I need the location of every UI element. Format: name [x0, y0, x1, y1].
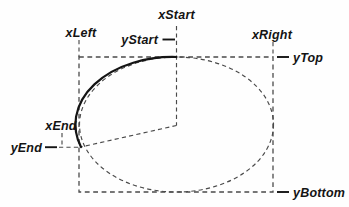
label-xstart: xStart: [157, 8, 195, 22]
label-ystart: yStart: [120, 33, 158, 47]
label-yend: yEnd: [10, 141, 43, 155]
label-ytop: yTop: [292, 51, 323, 65]
arc-solid: [75, 57, 176, 147]
radius-line-end: [81, 126, 177, 148]
label-xend: xEnd: [44, 119, 77, 133]
label-xright: xRight: [251, 28, 293, 42]
arc-parameters-diagram: xStart xLeft yStart xRight yTop xEnd yEn…: [0, 0, 349, 207]
arc-diagram-canvas: xStart xLeft yStart xRight yTop xEnd yEn…: [0, 0, 349, 207]
label-xleft: xLeft: [65, 26, 98, 40]
label-ybottom: yBottom: [292, 186, 345, 200]
